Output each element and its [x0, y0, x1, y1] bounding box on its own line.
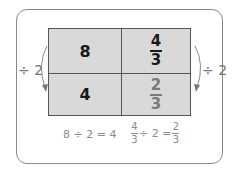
numerator: 4: [131, 122, 137, 132]
denominator: 3: [151, 53, 161, 68]
cell-top-right: 4 3: [122, 29, 190, 73]
fraction: 4 3: [150, 34, 162, 68]
fraction: 4 3: [131, 122, 138, 145]
fraction-grid: 8 4 3 4 2 3: [48, 28, 191, 116]
denominator: 3: [131, 135, 137, 145]
cell-bottom-left: 4: [49, 74, 121, 115]
cell-value: 8: [79, 42, 90, 61]
cell-top-left: 8: [49, 29, 121, 73]
cell-value: 4: [79, 85, 90, 104]
equation-middle: ÷ 2 =: [139, 127, 171, 140]
fraction: 2 3: [172, 122, 179, 145]
equation-left: 8 ÷ 2 = 4: [63, 128, 116, 141]
denominator: 3: [151, 97, 161, 112]
divide-label-right: ÷ 2: [202, 62, 227, 78]
equation-right: 4 3 ÷ 2 = 2 3: [131, 122, 179, 145]
cell-bottom-right: 2 3: [122, 74, 190, 115]
numerator: 2: [173, 122, 179, 132]
divide-label-left: ÷ 2: [18, 62, 43, 78]
numerator: 4: [151, 34, 161, 49]
denominator: 3: [173, 135, 179, 145]
numerator: 2: [151, 78, 161, 93]
fraction: 2 3: [150, 78, 162, 112]
equation-text: 8 ÷ 2 = 4: [63, 128, 116, 141]
